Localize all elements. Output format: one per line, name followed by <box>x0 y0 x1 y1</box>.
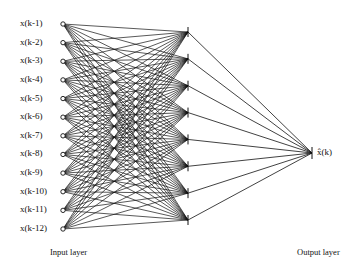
input-node <box>61 22 65 26</box>
input-node <box>61 40 65 44</box>
input-node <box>61 190 65 194</box>
output-node-label: x̂(k) <box>317 147 332 157</box>
input-node-label: x(k-3) <box>20 55 43 65</box>
input-node-label: x(k-7) <box>20 130 43 140</box>
input-node <box>61 59 65 63</box>
output-layer-label: Output layer <box>297 247 340 257</box>
input-node <box>61 96 65 100</box>
input-node-label: x(k-1) <box>20 18 43 28</box>
input-node-label: x(k-2) <box>20 37 43 47</box>
input-node <box>61 115 65 119</box>
input-node <box>61 78 65 82</box>
input-node-label: x(k-4) <box>20 74 43 84</box>
input-node <box>61 208 65 212</box>
network-diagram <box>0 0 357 266</box>
input-node-label: x(k-11) <box>20 204 47 214</box>
input-node-label: x(k-5) <box>20 93 43 103</box>
input-layer-label: Input layer <box>50 247 87 257</box>
input-node <box>61 227 65 231</box>
input-node-label: x(k-9) <box>20 167 43 177</box>
input-node <box>61 171 65 175</box>
input-node-label: x(k-12) <box>20 223 47 233</box>
input-node <box>61 152 65 156</box>
input-node-label: x(k-10) <box>20 186 47 196</box>
input-node-label: x(k-6) <box>20 111 43 121</box>
input-node <box>61 134 65 138</box>
input-node-label: x(k-8) <box>20 148 43 158</box>
